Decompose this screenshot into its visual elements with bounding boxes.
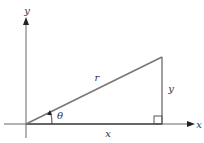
hypotenuse (26, 57, 162, 124)
x-axis-label: x (196, 119, 202, 130)
hypotenuse-label: r (95, 72, 101, 83)
right-triangle (26, 57, 162, 124)
x-axis-arrow-icon (187, 121, 195, 127)
triangle-diagram: y x r y x θ (0, 0, 204, 143)
opposite-label: y (167, 83, 174, 94)
angle-label: θ (57, 110, 63, 121)
y-axis-label: y (23, 5, 30, 16)
y-axis-arrow-icon (23, 17, 29, 25)
adjacent-label: x (105, 128, 111, 139)
right-angle-marker (154, 116, 162, 124)
y-axis: y (23, 5, 30, 138)
